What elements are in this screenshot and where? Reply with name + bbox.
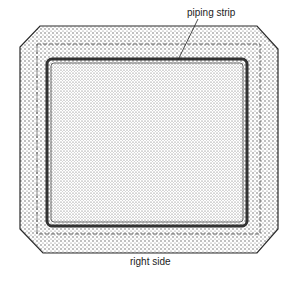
- piping-strip-label: piping strip: [187, 7, 235, 18]
- right-side-label: right side: [130, 256, 171, 267]
- cushion-diagram: [0, 0, 293, 283]
